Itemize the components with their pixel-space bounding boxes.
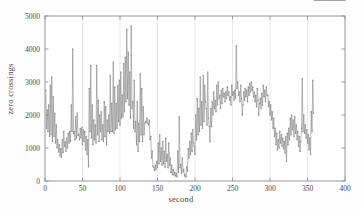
chart-page: zero crossings second 010002000300040005… [0, 0, 362, 210]
x-tick-label: 300 [255, 184, 285, 193]
x-axis-label: second [0, 194, 362, 204]
y-tick-label: 2000 [6, 111, 40, 120]
x-tick-label: 200 [180, 184, 210, 193]
y-tick-label: 5000 [6, 12, 40, 21]
y-tick-label: 4000 [6, 45, 40, 54]
y-tick-label: 1000 [6, 144, 40, 153]
x-tick-label: 100 [105, 184, 135, 193]
zero-crossings-chart: zero crossings second 010002000300040005… [0, 0, 362, 210]
plot-canvas [0, 0, 362, 210]
x-tick-label: 0 [30, 184, 60, 193]
x-tick-label: 350 [293, 184, 323, 193]
y-tick-label: 3000 [6, 78, 40, 87]
x-tick-label: 400 [330, 184, 360, 193]
x-tick-label: 50 [68, 184, 98, 193]
x-tick-label: 250 [218, 184, 248, 193]
x-tick-label: 150 [143, 184, 173, 193]
